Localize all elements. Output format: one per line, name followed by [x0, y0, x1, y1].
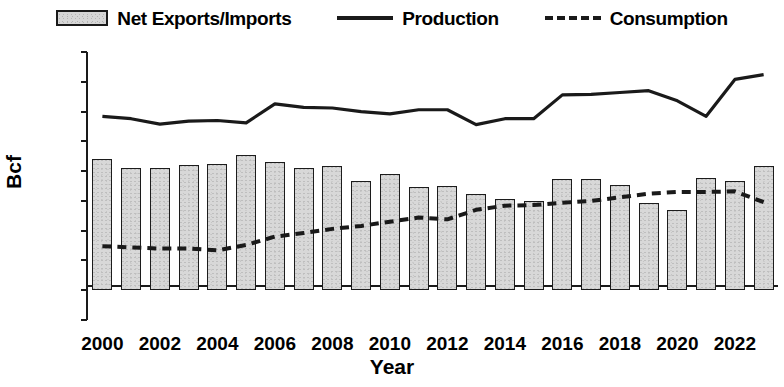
x-axis-title: Year: [0, 355, 784, 379]
y-tick-mark: [81, 111, 87, 113]
x-tick-label: 2022: [703, 334, 767, 353]
legend-swatch-solid-line-icon: [337, 16, 393, 20]
line-series: [88, 52, 778, 320]
y-tick-mark: [81, 230, 87, 232]
legend-item-production: Production: [337, 9, 498, 28]
y-tick-mark: [81, 289, 87, 291]
legend-label-production: Production: [402, 9, 498, 28]
y-tick-mark: [81, 259, 87, 261]
y-tick-mark: [81, 200, 87, 202]
y-axis-title: Bcf: [2, 142, 26, 202]
legend-item-net-exports-imports: Net Exports/Imports: [56, 9, 291, 28]
y-tick-mark: [81, 51, 87, 53]
x-tick-label: 2012: [415, 334, 479, 353]
legend-label-consumption: Consumption: [610, 9, 728, 28]
x-tick-label: 2010: [358, 334, 422, 353]
production-line: [102, 75, 763, 125]
y-tick-mark: [81, 319, 87, 321]
chart-legend: Net Exports/Imports Production Consumpti…: [0, 0, 784, 36]
x-tick-label: 2020: [645, 334, 709, 353]
x-tick-label: 2000: [70, 334, 134, 353]
plot-area: 40003500300025002000150010005000-500 200…: [88, 52, 778, 320]
x-tick-label: 2002: [128, 334, 192, 353]
legend-swatch-dashed-line-icon: [545, 16, 601, 20]
legend-item-consumption: Consumption: [545, 9, 728, 28]
x-tick-label: 2016: [530, 334, 594, 353]
x-tick-label: 2008: [300, 334, 364, 353]
y-tick-mark: [81, 140, 87, 142]
chart-container: Net Exports/Imports Production Consumpti…: [0, 0, 784, 387]
y-tick-mark: [81, 81, 87, 83]
legend-swatch-bar-icon: [56, 10, 108, 26]
y-tick-mark: [81, 170, 87, 172]
x-tick-label: 2018: [588, 334, 652, 353]
x-tick-label: 2006: [243, 334, 307, 353]
legend-label-net-exports-imports: Net Exports/Imports: [117, 9, 291, 28]
consumption-line: [102, 191, 763, 250]
x-tick-label: 2014: [473, 334, 537, 353]
x-tick-label: 2004: [185, 334, 249, 353]
